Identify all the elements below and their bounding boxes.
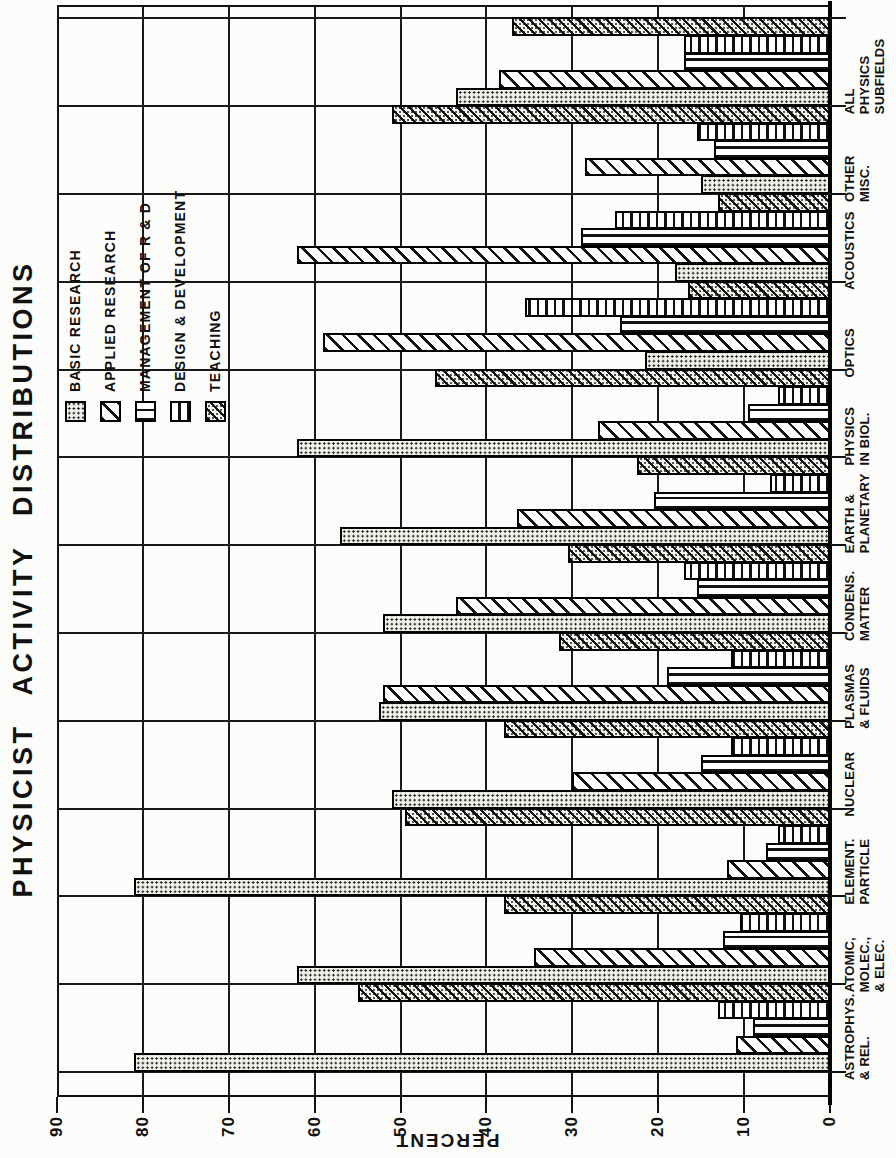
rotated-chart-stage: PHYSICIST ACTIVITY DISTRIBUTIONS PERCENT… — [0, 0, 896, 1158]
y-axis-tick — [743, 1097, 745, 1113]
y-axis-tick — [314, 1097, 316, 1113]
bar-management-of-r-d-element-particle — [766, 843, 830, 862]
bar-management-of-r-d-physics-in-biol- — [748, 404, 830, 423]
legend-label: APPLIED RESEARCH — [102, 230, 118, 392]
legend-swatch-diagonal-dense-icon — [205, 401, 226, 422]
plot-area: 0102030405060708090ASTROPHYS. & REL.ATOM… — [0, 0, 896, 1158]
y-axis-tick-label: 90 — [47, 1116, 67, 1150]
bar-design-development-condens-matter — [684, 562, 830, 581]
y-axis-tick-label: 60 — [305, 1116, 325, 1150]
bar-basic-research-earth-planetary — [340, 527, 830, 546]
bar-teaching-condens-matter — [568, 544, 830, 563]
bar-basic-research-other-misc- — [701, 175, 830, 194]
scanned-chart-page: PHYSICIST ACTIVITY DISTRIBUTIONS PERCENT… — [0, 0, 896, 1158]
bar-teaching-plasmas-fluids — [559, 632, 830, 651]
y-axis-tick — [228, 1097, 230, 1113]
bar-design-development-acoustics — [615, 211, 830, 230]
bar-basic-research-physics-in-biol- — [297, 439, 830, 458]
legend-swatch-diagonal-icon — [100, 401, 121, 422]
legend-item: DESIGN & DEVELOPMENT — [169, 190, 191, 422]
bar-teaching-earth-planetary — [637, 456, 830, 475]
bar-design-development-all-physics-subfields — [684, 35, 830, 54]
bar-management-of-r-d-atomic-molec-elec- — [723, 931, 830, 950]
y-axis-tick-label: 40 — [476, 1116, 496, 1150]
legend-item: BASIC RESEARCH — [64, 190, 86, 422]
bar-applied-research-condens-matter — [456, 597, 830, 616]
y-axis-tick — [571, 1097, 573, 1113]
bar-management-of-r-d-acoustics — [581, 228, 830, 247]
y-axis-tick-label: 70 — [219, 1116, 239, 1150]
y-axis-tick — [657, 1097, 659, 1113]
legend-label: DESIGN & DEVELOPMENT — [172, 190, 188, 392]
y-axis-tick — [56, 1097, 58, 1113]
bar-basic-research-acoustics — [675, 263, 830, 282]
bar-basic-research-all-physics-subfields — [456, 88, 830, 107]
bar-design-development-other-misc- — [697, 123, 830, 142]
legend-label: BASIC RESEARCH — [67, 249, 83, 392]
bar-design-development-optics — [525, 298, 830, 317]
bar-teaching-optics — [688, 281, 830, 300]
bar-management-of-r-d-all-physics-subfields — [684, 53, 830, 72]
bar-applied-research-all-physics-subfields — [499, 70, 830, 89]
bar-applied-research-plasmas-fluids — [383, 685, 830, 704]
y-axis-tick — [400, 1097, 402, 1113]
legend-item: MANAGEMENT OF R & D — [134, 190, 156, 422]
legend-item: TEACHING — [204, 190, 226, 422]
legend-swatch-dots-icon — [65, 401, 86, 422]
bar-teaching-nuclear — [504, 720, 830, 739]
bar-teaching-other-misc- — [392, 105, 830, 124]
y-axis-tick-label: 50 — [391, 1116, 411, 1150]
legend: BASIC RESEARCHAPPLIED RESEARCHMANAGEMENT… — [64, 190, 239, 422]
legend-label: MANAGEMENT OF R & D — [137, 202, 153, 392]
y-axis-tick-label: 30 — [562, 1116, 582, 1150]
bar-basic-research-condens-matter — [383, 614, 830, 633]
legend-swatch-horizontal-lines-icon — [170, 401, 191, 422]
bar-applied-research-atomic-molec-elec- — [534, 948, 830, 967]
bar-teaching-physics-in-biol- — [435, 369, 830, 388]
y-axis-tick-label: 80 — [133, 1116, 153, 1150]
legend-swatch-vertical-lines-icon — [135, 401, 156, 422]
y-axis-tick-label: 20 — [648, 1116, 668, 1150]
bar-teaching-element-particle — [405, 808, 830, 827]
bar-teaching-astrophys-rel- — [358, 983, 830, 1002]
bar-teaching-atomic-molec-elec- — [504, 895, 830, 914]
bar-applied-research-element-particle — [727, 860, 830, 879]
bar-design-development-atomic-molec-elec- — [740, 913, 830, 932]
bar-management-of-r-d-astrophys-rel- — [753, 1018, 830, 1037]
bar-basic-research-nuclear — [392, 790, 830, 809]
bar-applied-research-earth-planetary — [517, 509, 830, 528]
y-axis-tick-label: 10 — [734, 1116, 754, 1150]
bar-basic-research-plasmas-fluids — [379, 702, 830, 721]
y-axis-tick-label: 0 — [820, 1116, 840, 1150]
bar-management-of-r-d-earth-planetary — [654, 492, 830, 511]
bar-design-development-earth-planetary — [770, 474, 830, 493]
bar-applied-research-acoustics — [297, 246, 830, 265]
bar-teaching-acoustics — [718, 193, 830, 212]
bar-applied-research-other-misc- — [585, 158, 830, 177]
bar-design-development-nuclear — [731, 737, 830, 756]
legend-item: APPLIED RESEARCH — [99, 190, 121, 422]
bar-basic-research-optics — [645, 351, 830, 370]
bar-management-of-r-d-optics — [620, 316, 830, 335]
category-label: ALL PHYSICS SUBFIELDS — [842, 10, 887, 114]
y-axis-tick — [142, 1097, 144, 1113]
bar-basic-research-astrophys-rel- — [134, 1053, 830, 1072]
bar-basic-research-atomic-molec-elec- — [297, 966, 830, 985]
bar-management-of-r-d-nuclear — [701, 755, 830, 774]
bar-applied-research-physics-in-biol- — [598, 421, 830, 440]
bar-design-development-astrophys-rel- — [718, 1001, 830, 1020]
bar-applied-research-astrophys-rel- — [736, 1036, 830, 1055]
y-axis-tick — [485, 1097, 487, 1113]
bar-management-of-r-d-plasmas-fluids — [667, 667, 830, 686]
bar-basic-research-element-particle — [134, 878, 830, 897]
bar-management-of-r-d-condens-matter — [697, 579, 830, 598]
bar-teaching-all-physics-subfields — [512, 17, 830, 36]
bar-design-development-element-particle — [778, 825, 830, 844]
legend-label: TEACHING — [207, 309, 223, 392]
bar-design-development-physics-in-biol- — [778, 386, 830, 405]
bar-management-of-r-d-other-misc- — [714, 140, 830, 159]
bar-applied-research-nuclear — [572, 773, 830, 792]
bar-design-development-plasmas-fluids — [731, 650, 830, 669]
bar-applied-research-optics — [323, 334, 830, 353]
